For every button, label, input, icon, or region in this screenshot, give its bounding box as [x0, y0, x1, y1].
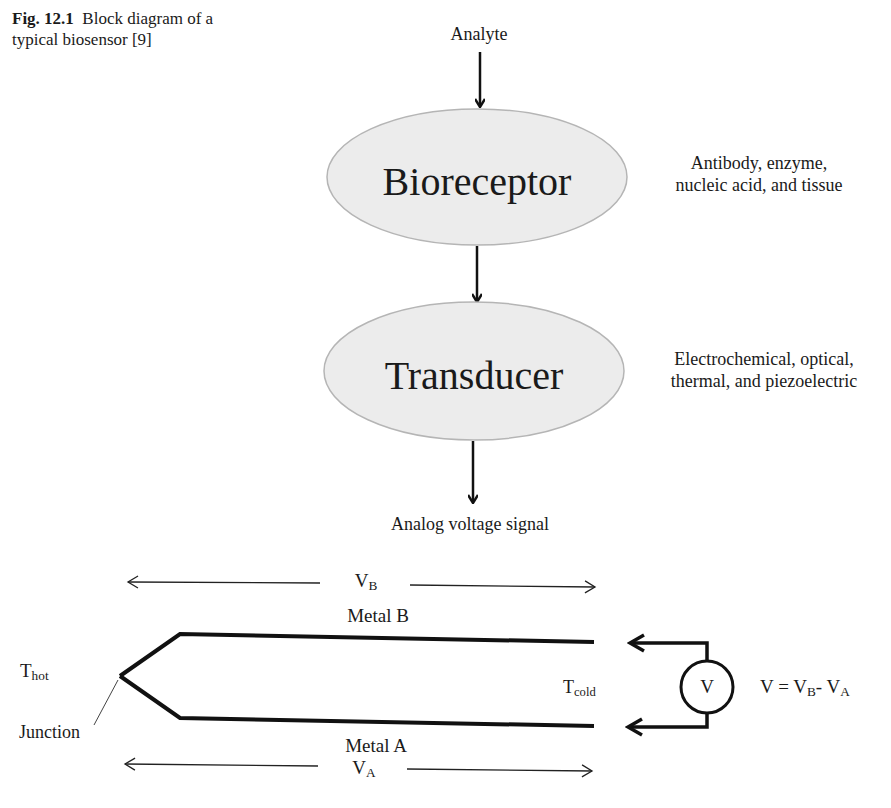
vb-main: V — [355, 570, 369, 591]
vb-label: VB — [355, 570, 378, 594]
transducer-note: Electrochemical, optical, thermal, and p… — [640, 348, 888, 392]
equation-sub1: B — [807, 684, 816, 699]
va-left-arrow — [125, 764, 318, 766]
transducer-note-line2: thermal, and piezoelectric — [640, 370, 888, 392]
caption-line1: Block diagram of a — [82, 9, 213, 28]
metal-b-label: Metal B — [347, 605, 409, 627]
va-right-arrow — [407, 769, 592, 771]
t-cold-label: Tcold — [563, 677, 596, 700]
equation-mid: - V — [816, 676, 840, 697]
t-hot-main: T — [20, 660, 32, 681]
va-sub: A — [366, 765, 376, 780]
figure-number: Fig. 12.1 — [12, 9, 74, 28]
equation-lhs: V = V — [760, 676, 807, 697]
transducer-note-line1: Electrochemical, optical, — [640, 348, 888, 370]
t-cold-sub: cold — [574, 685, 596, 699]
output-label: Analog voltage signal — [391, 514, 549, 535]
junction-leader-line — [94, 680, 118, 725]
va-main: V — [352, 757, 366, 778]
vb-right-arrow — [410, 585, 595, 587]
bioreceptor-note: Antibody, enzyme, nucleic acid, and tiss… — [645, 152, 873, 196]
equation-sub2: A — [840, 684, 850, 699]
caption-line2: typical biosensor [9] — [12, 29, 213, 50]
transducer-label: Transducer — [385, 352, 564, 399]
vb-left-arrow — [128, 582, 320, 583]
figure-caption: Fig. 12.1 Block diagram of a typical bio… — [12, 8, 213, 50]
voltmeter-symbol: V — [700, 676, 714, 698]
bioreceptor-note-line2: nucleic acid, and tissue — [645, 174, 873, 196]
t-hot-label: Thot — [20, 660, 49, 684]
metal-a-label: Metal A — [345, 735, 407, 757]
bioreceptor-label: Bioreceptor — [383, 158, 572, 205]
meter-bottom-lead — [628, 713, 707, 727]
voltage-equation: V = VB- VA — [760, 676, 850, 700]
vb-sub: B — [368, 578, 377, 593]
va-label: VA — [352, 757, 375, 781]
t-hot-sub: hot — [32, 668, 49, 683]
diagram-graphics — [0, 0, 891, 808]
metal-b-wire — [120, 634, 594, 676]
junction-label: Junction — [19, 722, 80, 743]
meter-top-lead — [630, 643, 707, 661]
analyte-label: Analyte — [451, 24, 508, 45]
t-cold-main: T — [563, 677, 574, 697]
metal-a-wire — [120, 676, 594, 726]
bioreceptor-note-line1: Antibody, enzyme, — [645, 152, 873, 174]
